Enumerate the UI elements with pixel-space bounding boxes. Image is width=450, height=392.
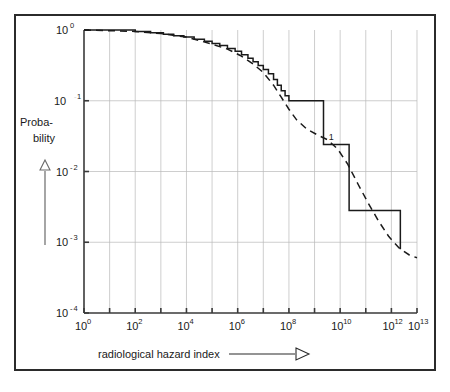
x-tick-label: 102 [126, 317, 142, 332]
y-tick-base: 10 [56, 307, 68, 319]
data-series-layer [84, 30, 417, 258]
x-tick-base: 10 [382, 320, 394, 332]
y-tick-base: 10 [56, 24, 68, 36]
x-tick-label: 1010 [331, 317, 351, 332]
y-tick-exponent: 2 [74, 163, 78, 172]
x-tick-base: 10 [280, 320, 292, 332]
x-tick-base: 10 [177, 320, 189, 332]
y-tick-label: 10-2 [56, 163, 78, 178]
x-axis-title: radiological hazard index [98, 348, 220, 360]
y-tick-exponent: 1 [77, 92, 81, 101]
x-tick-exponent: 4 [189, 317, 193, 326]
x-tick-exponent: 6 [241, 317, 245, 326]
x-tick-exponent: 10 [343, 317, 351, 326]
x-tick-exponent: 13 [420, 317, 428, 326]
y-tick-exponent: 0 [70, 21, 74, 30]
x-tick-base: 10 [126, 320, 138, 332]
step-curve-solid [84, 30, 400, 249]
fitted-curve-dashed [84, 30, 417, 258]
x-tick-base: 10 [331, 320, 343, 332]
y-tick-label: 100 [56, 21, 74, 36]
x-tick-base: 10 [408, 320, 420, 332]
y-tick-base: 10 [54, 95, 66, 107]
figure-root: 100102104106108101010121013 10010-110-21… [0, 0, 450, 392]
grid-lines [84, 30, 417, 313]
x-tick-exponent: 8 [292, 317, 296, 326]
x-tick-exponent: 2 [138, 317, 142, 326]
x-tick-label: 104 [177, 317, 193, 332]
x-tick-base: 10 [229, 320, 241, 332]
y-axis-title-line1: Proba- [20, 116, 53, 128]
right-arrow-outline-icon [229, 348, 309, 360]
y-axis-title-line2: bility [33, 132, 56, 144]
y-tick-base: 10 [56, 236, 68, 248]
x-tick-label: 100 [75, 317, 91, 332]
x-axis-tick-labels: 100102104106108101010121013 [75, 317, 428, 332]
x-tick-label: 1013 [408, 317, 428, 332]
y-axis-tick-labels: 10010-110-210-310-4 [54, 21, 81, 319]
x-tick-exponent: 12 [394, 317, 402, 326]
y-tick-label: 10-1 [54, 92, 81, 107]
y-tick-exponent: 3 [74, 233, 78, 242]
x-tick-base: 10 [75, 320, 87, 332]
curve-annotation-label: 1 [329, 132, 334, 142]
y-tick-base: 10 [56, 166, 68, 178]
y-tick-exponent: 4 [74, 304, 78, 313]
chart-canvas: 100102104106108101010121013 10010-110-21… [0, 0, 450, 392]
y-tick-label: 10-4 [56, 304, 78, 319]
x-tick-label: 1012 [382, 317, 402, 332]
chart-annotations: 1 [329, 132, 334, 142]
x-tick-exponent: 0 [87, 317, 91, 326]
up-triangle-outline-icon [40, 160, 50, 245]
x-tick-label: 106 [229, 317, 245, 332]
y-tick-label: 10-3 [56, 233, 78, 248]
x-tick-label: 108 [280, 317, 296, 332]
